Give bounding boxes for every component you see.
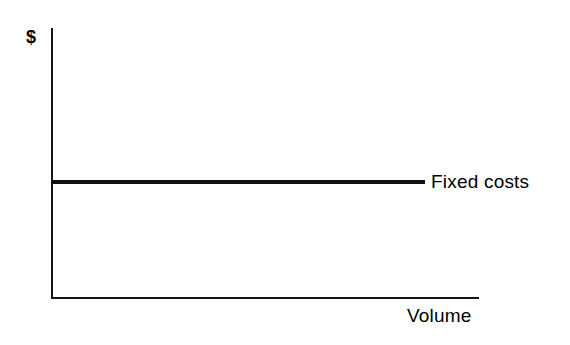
x-axis-label: Volume bbox=[407, 304, 472, 328]
y-axis-line bbox=[51, 28, 53, 299]
fixed-costs-chart: $ Volume Fixed costs bbox=[0, 0, 570, 345]
y-axis-label: $ bbox=[26, 26, 36, 48]
fixed-costs-line bbox=[51, 180, 425, 184]
fixed-costs-label: Fixed costs bbox=[431, 170, 529, 194]
x-axis-line bbox=[51, 297, 479, 299]
